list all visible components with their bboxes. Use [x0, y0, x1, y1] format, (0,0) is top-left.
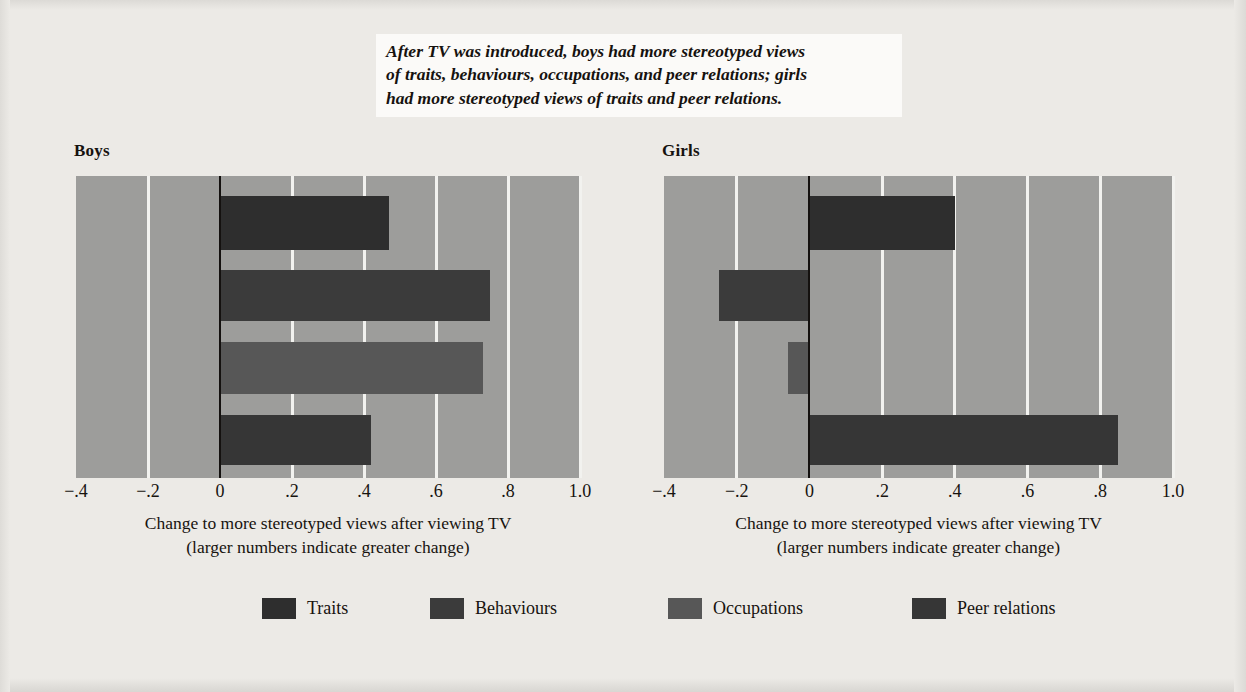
x-axis-label-boys: Change to more stereotyped views after v…: [56, 512, 600, 560]
bar-girls-behaviours: [719, 270, 810, 321]
x-tick-label: −.4: [64, 481, 88, 502]
bar-girls-peer-relations: [809, 415, 1118, 465]
paper-edge-bottom: [0, 678, 1246, 692]
gridline: [579, 176, 582, 478]
x-tick-label: −.4: [652, 481, 676, 502]
bar-girls-traits: [809, 196, 954, 250]
x-axis-label-girls: Change to more stereotyped views after v…: [644, 512, 1193, 560]
bar-boys-peer-relations: [220, 415, 371, 465]
x-tick-label: .6: [1021, 481, 1035, 502]
x-tick-label: .2: [875, 481, 889, 502]
legend-item-traits[interactable]: Traits: [262, 598, 348, 619]
x-tick-label: −.2: [136, 481, 160, 502]
paper-edge-right: [1234, 0, 1246, 692]
legend-label: Behaviours: [475, 598, 557, 619]
gridline: [435, 176, 438, 478]
legend-label: Peer relations: [957, 598, 1055, 619]
paper-edge-left: [0, 0, 10, 692]
legend-item-peer-relations[interactable]: Peer relations: [912, 598, 1055, 619]
bar-boys-behaviours: [220, 270, 490, 321]
x-tick-label: .2: [285, 481, 299, 502]
zero-line: [808, 176, 810, 478]
legend-item-occupations[interactable]: Occupations: [668, 598, 803, 619]
x-tick-label: 1.0: [1162, 481, 1185, 502]
x-tick-label: .8: [1094, 481, 1108, 502]
x-axis-label-boys-line1: Change to more stereotyped views after v…: [56, 512, 600, 536]
x-tick-label: .6: [429, 481, 443, 502]
chart-legend: TraitsBehavioursOccupationsPeer relation…: [262, 598, 1002, 632]
paper-edge-top: [0, 0, 1246, 10]
plot-area-girls: [664, 176, 1173, 478]
x-tick-label: −.2: [725, 481, 749, 502]
bar-boys-occupations: [220, 342, 483, 394]
figure-page: After TV was introduced, boys had more s…: [0, 0, 1246, 692]
x-tick-label: 1.0: [569, 481, 592, 502]
figure-caption: After TV was introduced, boys had more s…: [376, 34, 902, 117]
legend-item-behaviours[interactable]: Behaviours: [430, 598, 557, 619]
legend-label: Traits: [307, 598, 348, 619]
gridline: [507, 176, 510, 478]
plot-area-boys: [76, 176, 580, 478]
caption-line-1: After TV was introduced, boys had more s…: [386, 40, 894, 63]
x-axis-ticks-boys: −.4−.20.2.4.6.81.0: [76, 481, 580, 507]
x-axis-label-boys-line2: (larger numbers indicate greater change): [56, 536, 600, 560]
gridline: [147, 176, 150, 478]
x-axis-label-girls-line1: Change to more stereotyped views after v…: [644, 512, 1193, 536]
legend-label: Occupations: [713, 598, 803, 619]
gridline: [1172, 176, 1175, 478]
x-tick-label: .4: [357, 481, 371, 502]
bar-girls-occupations: [788, 342, 810, 394]
x-axis-ticks-girls: −.4−.20.2.4.6.81.0: [664, 481, 1173, 507]
panel-title-boys: Boys: [74, 141, 110, 161]
x-tick-label: .4: [948, 481, 962, 502]
caption-line-2: of traits, behaviours, occupations, and …: [386, 63, 894, 86]
legend-swatch-icon: [668, 598, 702, 619]
zero-line: [219, 176, 221, 478]
gridline: [735, 176, 738, 478]
bar-boys-traits: [220, 196, 389, 250]
legend-swatch-icon: [262, 598, 296, 619]
x-tick-label: .8: [501, 481, 515, 502]
panel-title-girls: Girls: [662, 141, 700, 161]
x-tick-label: 0: [216, 481, 225, 502]
x-tick-label: 0: [805, 481, 814, 502]
legend-swatch-icon: [430, 598, 464, 619]
legend-swatch-icon: [912, 598, 946, 619]
caption-line-3: had more stereotyped views of traits and…: [386, 87, 894, 110]
x-axis-label-girls-line2: (larger numbers indicate greater change): [644, 536, 1193, 560]
